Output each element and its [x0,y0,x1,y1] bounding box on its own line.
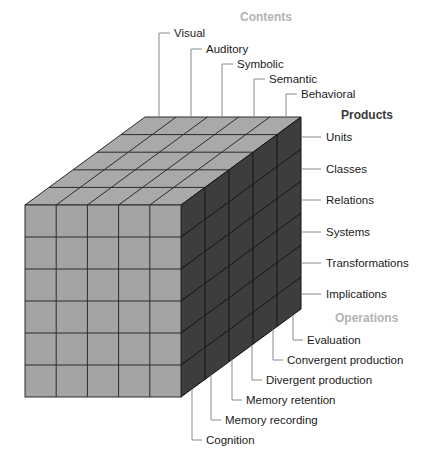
contents-label-behavioral: Behavioral [301,88,355,100]
products-label-relations: Relations [326,194,374,206]
cube [25,117,301,397]
contents-label-symbolic: Symbolic [237,58,284,70]
operations-leader-line [192,389,202,440]
operations-leader-line [232,360,242,400]
contents-leader-line [191,49,202,117]
contents-label-visual: Visual [174,27,205,39]
contents-label-auditory: Auditory [206,43,248,55]
operations-leader-line [252,345,262,380]
operations-label-memory-recording: Memory recording [225,414,318,426]
contents-leader-line [254,79,265,117]
operations-leader-line [293,315,303,340]
products-label-transformations: Transformations [326,257,409,269]
operations-leader-line [211,375,221,420]
operations-header: Operations [335,311,399,325]
operations-leader-line [273,330,283,360]
contents-label-semantic: Semantic [269,73,317,85]
products-label-implications: Implications [326,288,387,300]
products-label-units: Units [326,131,352,143]
products-label-systems: Systems [326,226,370,238]
operations-label-evaluation: Evaluation [307,334,361,346]
products-header: Products [341,108,393,122]
contents-leader-line [159,33,170,117]
structure-of-intellect-cube-diagram: Contents Products Operations Visual Audi… [0,0,423,471]
operations-label-cognition: Cognition [206,434,255,446]
contents-leader-line [286,94,297,117]
products-label-classes: Classes [326,163,367,175]
contents-leader-line [222,64,233,117]
operations-label-divergent-production: Divergent production [266,374,372,386]
operations-label-convergent-production: Convergent production [287,354,403,366]
contents-header: Contents [240,10,292,24]
operations-label-memory-retention: Memory retention [246,394,335,406]
